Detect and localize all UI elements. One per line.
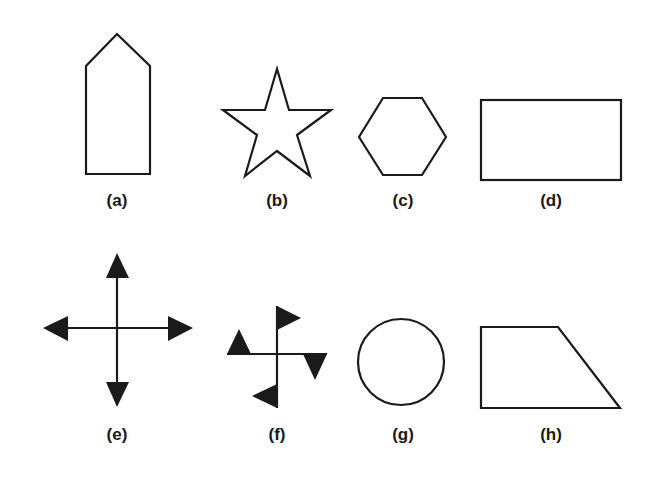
panel-g: (g) [358,319,444,444]
label-c: (c) [393,191,414,210]
arrow-right-icon [168,316,193,341]
star-shape [223,69,331,176]
pentagon-house-shape [86,34,150,174]
arrow-left-icon [43,316,68,341]
label-a: (a) [107,191,128,210]
panel-f: (f) [227,306,327,444]
arrow-up-icon [106,253,129,278]
panel-e: (e) [43,253,193,444]
label-f: (f) [269,425,286,444]
label-e: (e) [107,425,128,444]
flag-bottom-icon [252,384,277,408]
flag-top-icon [277,306,301,330]
trapezoid-shape [481,327,620,408]
label-g: (g) [392,425,414,444]
hexagon-shape [359,98,446,175]
panel-d: (d) [481,100,621,210]
shapes-figure: (a) (b) (c) (d) (e) (f) (g) [0,0,656,484]
panel-b: (b) [223,69,331,210]
rectangle-shape [481,100,621,180]
label-b: (b) [266,191,288,210]
panel-a: (a) [86,34,150,210]
arrow-down-icon [106,382,129,407]
flag-left-icon [227,329,251,354]
flag-right-icon [303,354,327,380]
label-d: (d) [540,191,562,210]
circle-shape [358,319,444,405]
panel-h: (h) [481,327,620,444]
label-h: (h) [540,425,562,444]
panel-c: (c) [359,98,446,210]
